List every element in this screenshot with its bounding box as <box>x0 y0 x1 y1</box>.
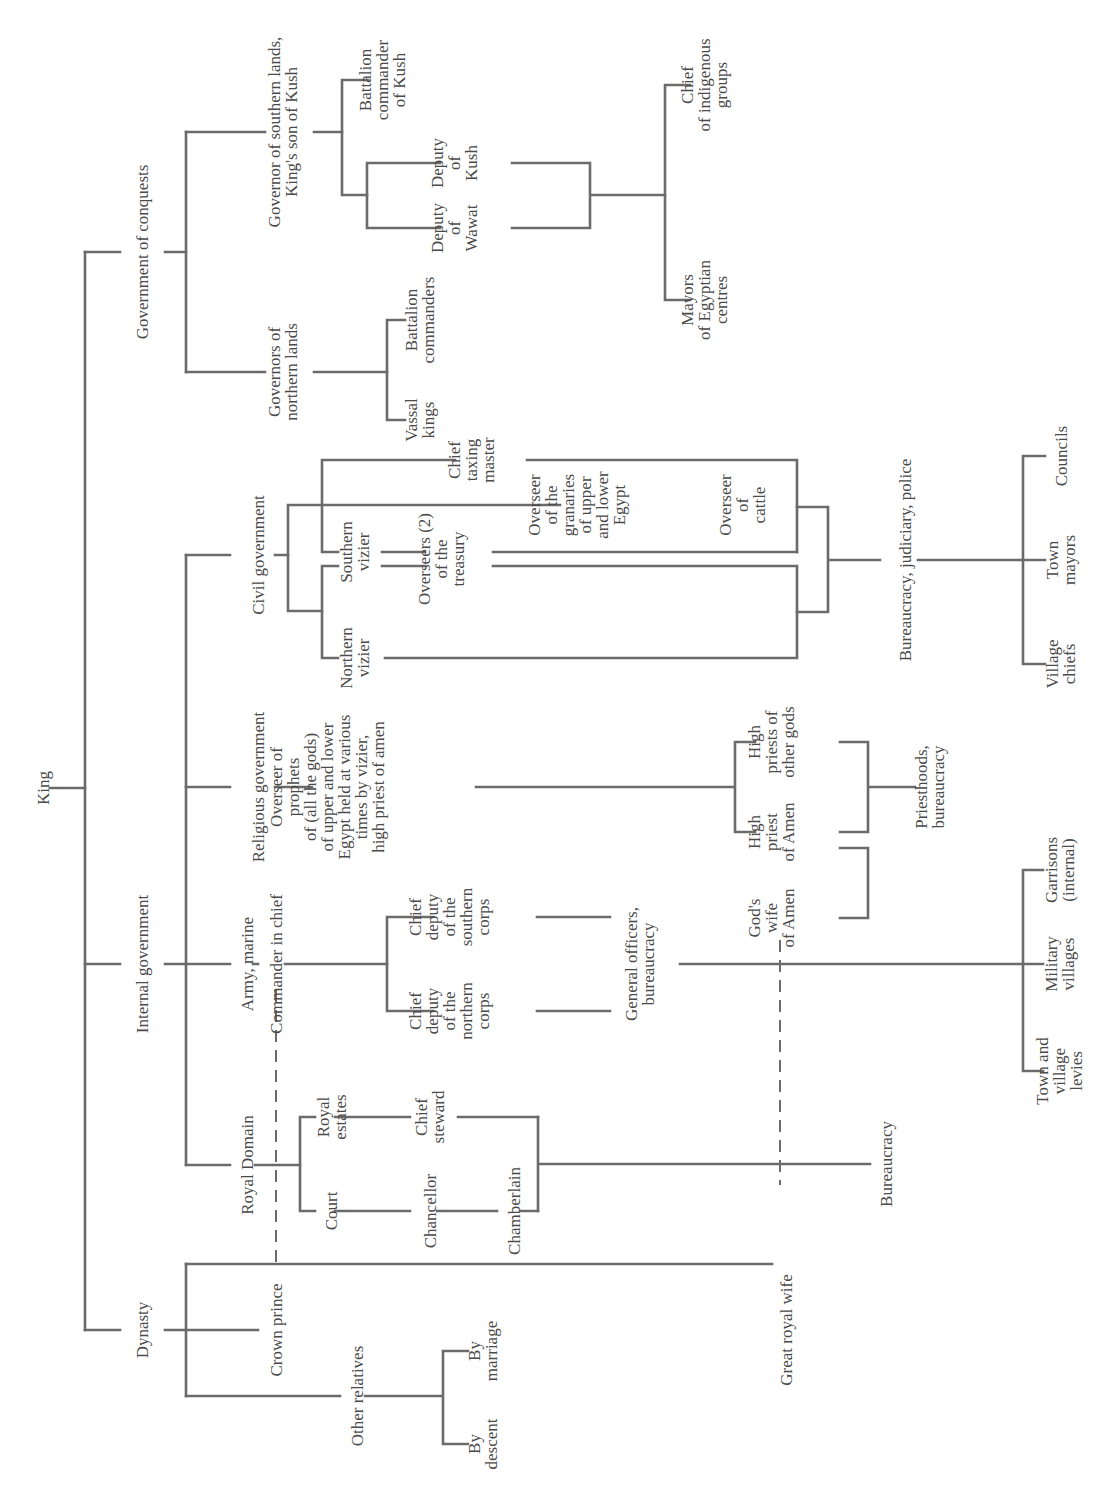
node-great-royal-wife: Great royal wife <box>777 1274 796 1385</box>
node-governor-southern-lands: Governor of southern lands,King's son of… <box>265 37 301 228</box>
node-by-descent: Bydescent <box>465 1418 501 1469</box>
node-deputy-wawat: DeputyofWawat <box>428 202 481 253</box>
node-town-mayors: Townmayors <box>1043 535 1079 585</box>
node-court: Court <box>322 1191 341 1230</box>
node-civil-government: Civil government <box>249 495 268 615</box>
node-royal-domain: Royal Domain <box>238 1115 257 1215</box>
node-chief-steward: Chiefsteward <box>412 1090 448 1143</box>
node-military-villages: Militaryvillages <box>1042 936 1078 992</box>
node-chancellor: Chancellor <box>421 1173 440 1248</box>
node-high-priest-amen: Highpriestof Amen <box>745 802 798 862</box>
node-high-priests-other-gods: Highpriests ofother gods <box>745 706 798 777</box>
node-southern-vizier: Southernvizier <box>337 521 373 583</box>
node-bureaucracy-judiciary-police: Bureaucracy, judiciary, police <box>896 459 915 662</box>
node-king: King <box>34 771 53 806</box>
node-chief-deputy-northern-corps: Chiefdeputyof thenortherncorps <box>406 982 493 1040</box>
node-crown-prince: Crown prince <box>267 1283 286 1376</box>
node-chamberlain: Chamberlain <box>505 1167 524 1255</box>
node-mayors-egyptian-centres: Mayorsof Egyptiancentres <box>678 260 731 340</box>
node-garrisons-internal: Garrisons(internal) <box>1042 837 1078 903</box>
node-chief-deputy-southern-corps: Chiefdeputyof thesoutherncorps <box>406 887 493 946</box>
labels: King Government of conquests Internal go… <box>34 37 1086 1470</box>
connector-lines <box>50 80 1045 1444</box>
node-councils: Councils <box>1052 426 1071 486</box>
node-internal-government: Internal government <box>133 895 152 1034</box>
node-general-officers-bureaucracy: General officers,bureaucracy <box>622 907 658 1021</box>
node-overseer-cattle: Overseerofcattle <box>716 474 769 536</box>
node-religious-government: Religious government <box>249 711 268 862</box>
node-chief-taxing-master: Chieftaxingmaster <box>445 437 498 483</box>
dashed-relationship-lines <box>276 940 780 1262</box>
node-royal-estates: Royalestates <box>314 1094 350 1139</box>
node-battalion-commander-kush: Battalioncommanderof Kush <box>356 40 409 121</box>
node-northern-vizier: Northernvizier <box>337 627 373 689</box>
node-royal-bureaucracy: Bureaucracy <box>877 1121 896 1207</box>
node-battalion-commanders: Battalioncommanders <box>402 277 438 364</box>
node-governors-northern-lands: Governors ofnorthern lands <box>265 323 301 421</box>
node-overseers-treasury: Overseers (2)of thetreasury <box>415 513 468 605</box>
node-deputy-kush: DeputyofKush <box>428 137 481 188</box>
node-chief-indigenous-groups: Chiefof indigenousgroups <box>678 38 731 131</box>
node-overseer-granaries: Overseerof thegranariesof upperand lower… <box>525 471 629 539</box>
node-village-chiefs: Villagechiefs <box>1043 639 1079 688</box>
node-town-village-levies: Town andvillagelevies <box>1033 1037 1086 1105</box>
node-dynasty: Dynasty <box>133 1301 152 1358</box>
node-vassal-kings: Vassalkings <box>402 398 438 442</box>
node-other-relatives: Other relatives <box>348 1346 367 1447</box>
node-overseer-of-prophets: Overseer ofprophetsof (all the gods)of u… <box>267 715 388 860</box>
node-by-marriage: Bymarriage <box>465 1321 501 1381</box>
node-government-of-conquests: Government of conquests <box>133 165 152 340</box>
node-priesthoods-bureaucracy: Priesthoods,bureaucracy <box>912 745 948 829</box>
node-commander-in-chief: Commander in chief <box>267 894 286 1034</box>
node-gods-wife-amen: God'swifeof Amen <box>745 888 798 948</box>
egyptian-government-org-chart: King Government of conquests Internal go… <box>0 0 1115 1498</box>
node-army-marine: Army, marine <box>238 917 257 1011</box>
